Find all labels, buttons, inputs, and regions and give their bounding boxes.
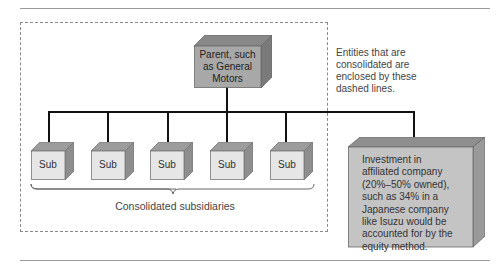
sub-cube-1: Sub bbox=[31, 142, 74, 180]
sub-label: Sub bbox=[91, 159, 125, 171]
sub-label: Sub bbox=[150, 159, 184, 171]
parent-connector bbox=[226, 87, 228, 113]
sub-label: Sub bbox=[210, 159, 244, 171]
dashed-lines-note: Entities that are consolidated are enclo… bbox=[336, 47, 456, 95]
sub-label: Sub bbox=[270, 159, 304, 171]
brace-icon bbox=[30, 183, 316, 197]
parent-cube: Parent, such as General Motors bbox=[194, 35, 272, 88]
bus-line bbox=[48, 111, 415, 113]
investment-text: Investment in affiliated company (20%–50… bbox=[362, 154, 472, 253]
subsidiaries-caption: Consolidated subsidiaries bbox=[100, 200, 250, 212]
sub-cube-4: Sub bbox=[210, 142, 253, 180]
sub-cube-5: Sub bbox=[270, 142, 313, 180]
bottom-rule bbox=[20, 260, 490, 261]
sub-cube-3: Sub bbox=[150, 142, 193, 180]
sub-label: Sub bbox=[31, 159, 65, 171]
sub-cube-2: Sub bbox=[91, 142, 134, 180]
top-rule bbox=[20, 8, 490, 9]
parent-label: Parent, such as General Motors bbox=[194, 49, 261, 85]
investment-cube: Investment in affiliated company (20%–50… bbox=[348, 137, 485, 248]
